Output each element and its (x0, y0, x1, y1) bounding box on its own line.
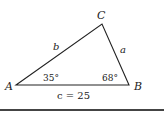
divider-rule (0, 109, 164, 111)
vertex-label-a: A (4, 80, 13, 93)
side-label-a: a (120, 44, 126, 55)
triangle-diagram: A B C b a c = 25 35° 68° (0, 0, 164, 113)
vertex-label-b: B (133, 80, 142, 93)
angle-label-a: 35° (43, 73, 59, 83)
angle-label-b: 68° (102, 73, 118, 83)
vertex-label-c: C (97, 9, 106, 22)
side-label-c: c = 25 (57, 90, 90, 101)
side-label-b: b (53, 41, 59, 52)
